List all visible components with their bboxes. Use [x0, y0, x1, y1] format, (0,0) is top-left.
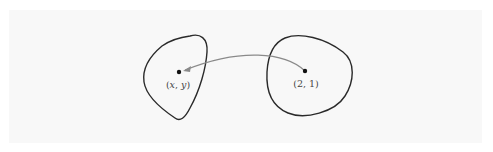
point-2-1: [303, 69, 307, 73]
mapping-arrow: [185, 55, 305, 71]
left-region-outline: [144, 35, 207, 119]
point-xy: [177, 70, 181, 74]
arrowhead-icon: [183, 66, 191, 72]
right-region-outline: [267, 36, 352, 116]
label-x: x: [170, 79, 175, 90]
mapping-diagram: [0, 0, 493, 152]
label-y: y: [181, 79, 186, 90]
point-2-1-label: (2, 1): [293, 78, 319, 89]
point-xy-label: (x, y): [166, 79, 190, 90]
